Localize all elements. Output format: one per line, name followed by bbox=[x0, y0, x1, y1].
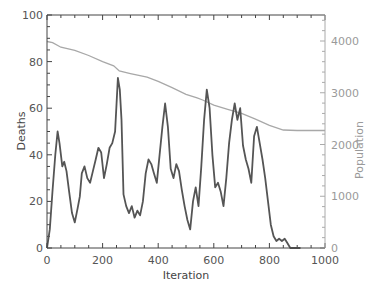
y-tick-label: 20 bbox=[29, 195, 43, 208]
population-line bbox=[47, 42, 325, 131]
x-axis-title: Iteration bbox=[163, 269, 210, 282]
y-tick-label: 0 bbox=[36, 242, 43, 255]
chart: 02004006008001000 020406080100 010002000… bbox=[0, 0, 382, 290]
deaths-line bbox=[47, 78, 301, 248]
x-tick-label: 200 bbox=[92, 254, 113, 267]
x-tick-label: 0 bbox=[44, 254, 51, 267]
y-tick-label: 80 bbox=[29, 56, 43, 69]
x-axis-tick-labels: 02004006008001000 bbox=[44, 254, 340, 267]
y2-tick-label: 4000 bbox=[331, 35, 359, 48]
y-axis-left-title: Deaths bbox=[15, 111, 28, 150]
y2-tick-label: 3000 bbox=[331, 87, 359, 100]
y-tick-label: 60 bbox=[29, 102, 43, 115]
y-tick-label: 40 bbox=[29, 149, 43, 162]
x-tick-label: 600 bbox=[203, 254, 224, 267]
y2-tick-label: 1000 bbox=[331, 190, 359, 203]
y-tick-label: 100 bbox=[22, 9, 43, 22]
y-axis-right-ticks bbox=[320, 20, 325, 248]
y-axis-right-title: Population bbox=[353, 121, 366, 179]
x-tick-label: 400 bbox=[148, 254, 169, 267]
x-tick-label: 800 bbox=[259, 254, 280, 267]
x-tick-label: 1000 bbox=[311, 254, 339, 267]
y2-tick-label: 0 bbox=[331, 242, 338, 255]
